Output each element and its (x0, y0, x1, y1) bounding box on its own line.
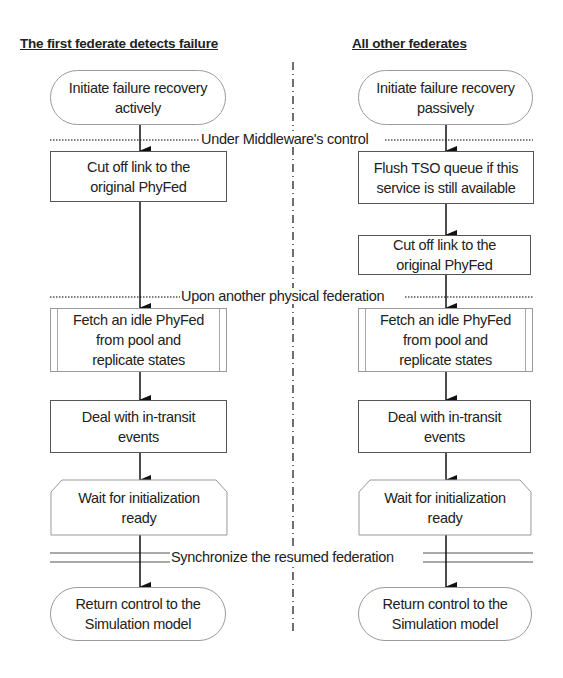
node-text-line: Initiate failure recovery (376, 80, 514, 96)
node-text-line: Return control to the (382, 596, 507, 612)
node-text-line: events (424, 429, 465, 445)
node-text-line: from pool and (96, 332, 181, 348)
left-end-return-control: Return control to theSimulation model (50, 587, 226, 641)
right-cut-off-link-box: Cut off link to theoriginal PhyFed (358, 235, 531, 275)
node-text-line: Cut off link to the (393, 237, 496, 253)
node-text-line: Wait for initialization (78, 490, 200, 506)
separator-another-physical-federation: Upon another physical federation (180, 288, 385, 304)
left-deal-in-transit-box: Deal with in-transitevents (50, 400, 227, 453)
node-text-line: Deal with in-transit (388, 409, 501, 425)
left-wait-initialization-box: Wait for initializationready (51, 480, 227, 535)
node-text-line: events (118, 429, 159, 445)
node-text-line: original PhyFed (396, 257, 492, 273)
node-text-line: Fetch an idle PhyFed (380, 312, 511, 328)
node-text-line: passively (417, 100, 474, 116)
node-text-line: actively (115, 100, 161, 116)
left-fetch-idle-phyfed-box: Fetch an idle PhyFedfrom pool andreplica… (50, 308, 227, 372)
node-text-line: from pool and (403, 332, 488, 348)
node-text-line: Wait for initialization (384, 490, 506, 506)
node-text-line: original PhyFed (90, 179, 186, 195)
separator-synchronize-federation: Synchronize the resumed federation (170, 549, 395, 565)
right-start-initiate-recovery-passively: Initiate failure recoverypassively (358, 70, 533, 125)
node-text-line: Return control to the (75, 596, 200, 612)
node-text-line: Deal with in-transit (82, 409, 195, 425)
separator-middleware-control: Under Middleware's control (200, 131, 369, 147)
node-text-line: replicate states (92, 352, 185, 368)
node-text-line: replicate states (399, 352, 492, 368)
node-text-line: Simulation model (392, 616, 498, 632)
node-text-line: ready (428, 510, 463, 526)
node-text-line: Initiate failure recovery (69, 80, 207, 96)
node-text-line: Fetch an idle PhyFed (73, 312, 204, 328)
right-wait-initialization-box: Wait for initializationready (359, 480, 531, 535)
right-end-return-control: Return control to theSimulation model (358, 587, 532, 641)
node-text-line: ready (122, 510, 157, 526)
left-cut-off-link-box: Cut off link to theoriginal PhyFed (50, 151, 227, 202)
node-text-line: Flush TSO queue if this (374, 160, 518, 176)
right-deal-in-transit-box: Deal with in-transitevents (358, 400, 531, 453)
node-text-line: Simulation model (85, 616, 191, 632)
left-start-initiate-recovery-actively: Initiate failure recoveryactively (50, 70, 226, 125)
right-fetch-idle-phyfed-box: Fetch an idle PhyFedfrom pool andreplica… (358, 308, 533, 372)
node-text-line: Cut off link to the (87, 159, 190, 175)
node-text-line: service is still available (377, 180, 516, 196)
right-flush-tso-queue-box: Flush TSO queue if thisservice is still … (358, 151, 534, 204)
